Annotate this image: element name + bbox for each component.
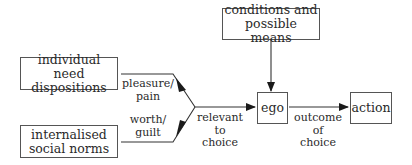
node-text-line: internalised: [29, 128, 109, 142]
node-text-line: social norms: [29, 142, 109, 156]
edge-label-relevant-to-choice: relevant to choice: [190, 112, 250, 150]
node-text-line: possible means: [223, 17, 319, 45]
edge-label-worth-guilt: worth/ guilt: [122, 114, 174, 139]
edge-label-pleasure-pain: pleasure/ pain: [122, 78, 174, 103]
node-ego-label: ego: [261, 101, 284, 115]
label-line: pain: [122, 91, 174, 104]
arrowhead-worth: [176, 120, 186, 137]
edge-label-outcome-of-choice: outcome of choice: [288, 112, 348, 150]
node-text-line: individual need: [21, 53, 117, 81]
label-line: outcome: [288, 112, 348, 125]
label-line: worth/: [122, 114, 174, 127]
label-line: guilt: [122, 127, 174, 140]
node-text-line: conditions and: [223, 3, 319, 17]
label-line: choice: [190, 137, 250, 150]
node-internalised-social-norms: internalised social norms: [20, 125, 118, 158]
label-line: choice: [288, 137, 348, 150]
label-line: pleasure/: [122, 78, 174, 91]
node-individual-need-dispositions: individual need dispositions: [20, 57, 118, 90]
label-line: relevant: [190, 112, 250, 125]
node-action-label: action: [351, 101, 390, 115]
node-text-line: dispositions: [21, 81, 117, 95]
arrowhead-pleasure: [176, 78, 186, 92]
node-ego: ego: [257, 92, 288, 124]
node-conditions-and-possible-means: conditions and possible means: [222, 8, 320, 40]
node-action: action: [350, 92, 392, 124]
